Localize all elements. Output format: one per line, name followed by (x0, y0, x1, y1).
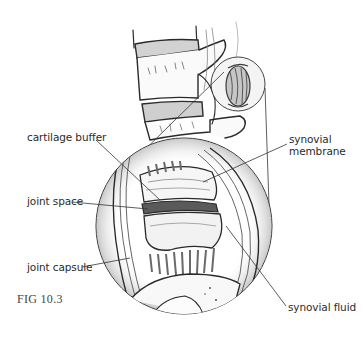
label-cartilage-buffer: cartilage buffer (27, 131, 106, 143)
small-detail-circle (211, 57, 265, 111)
label-joint-space: joint space (27, 195, 83, 207)
figure-caption: FIG 10.3 (17, 292, 63, 307)
label-synovial-membrane: synovial membrane (289, 133, 346, 157)
label-synovial-membrane-line1: synovial (289, 133, 346, 145)
joint-illustration (0, 0, 364, 338)
label-synovial-fluid: synovial fluid (288, 301, 356, 313)
label-synovial-membrane-line2: membrane (289, 145, 346, 157)
label-joint-capsule: joint capsule (27, 261, 92, 273)
magnified-joint-circle (96, 138, 272, 320)
